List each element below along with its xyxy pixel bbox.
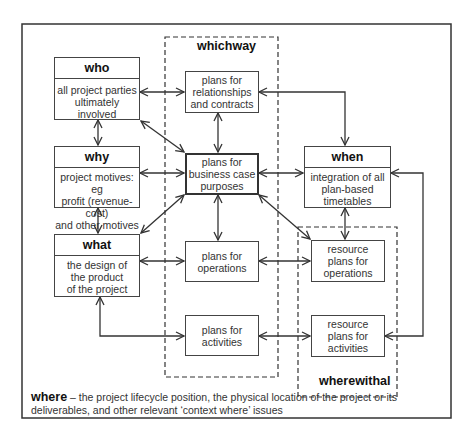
what-text-line: of the project [55,283,139,295]
who-title: who [55,58,139,79]
why-text-line: profit (revenue-cost) [55,195,139,219]
when-box: when integration of all plan-based timet… [304,146,391,208]
why-text-line: project motives: eg [55,171,139,195]
plan-text-line: plans for [197,250,246,262]
where-label: where [31,390,67,404]
plan-text-line: resource [328,318,369,330]
plan-text-line: plans for [190,74,253,86]
why-box: why project motives: eg profit (revenue-… [54,146,140,208]
plan-text-line: relationships [190,86,253,98]
where-text: – the project lifecycle position, the ph… [31,391,397,416]
who-box: who all project parties ultimately invol… [54,57,140,120]
what-title: what [55,235,139,256]
plan-text-line: plans for [323,255,372,267]
why-title: why [55,147,139,168]
when-text-line: plan-based [305,183,390,195]
what-text-line: the design of [55,259,139,271]
plans-relationships-box: plans for relationships and contracts [185,71,259,113]
when-text-line: integration of all [305,171,390,183]
where-caption: where – the project lifecycle position, … [31,391,441,417]
resource-plans-activities-box: resource plans for activities [311,315,385,357]
resource-plans-operations-box: resource plans for operations [311,240,385,282]
plan-text-line: operations [323,267,372,279]
plans-activities-box: plans for activities [185,315,259,356]
what-box: what the design of the product of the pr… [54,234,140,297]
plan-text-line: plans for [328,330,369,342]
when-text-line: timetables [305,195,390,207]
plans-business-case-box: plans for business case purposes [185,153,259,195]
plans-operations-box: plans for operations [185,241,259,282]
plan-text-line: operations [197,262,246,274]
plan-text-line: plans for [202,324,242,336]
plan-text-line: activities [202,336,242,348]
whichway-label: whichway [197,39,256,53]
who-text-line: ultimately involved [55,96,139,120]
plan-text-line: and contracts [190,98,253,110]
plan-text-line: purposes [189,180,256,192]
plan-text-line: activities [328,342,369,354]
who-text-line: all project parties [55,84,139,96]
when-title: when [305,147,390,168]
plan-text-line: resource [323,243,372,255]
plan-text-line: business case [189,168,256,180]
wherewithal-label: wherewithal [319,374,391,388]
what-text-line: the product [55,271,139,283]
plan-text-line: plans for [189,156,256,168]
why-text-line: and other motives [55,219,139,231]
